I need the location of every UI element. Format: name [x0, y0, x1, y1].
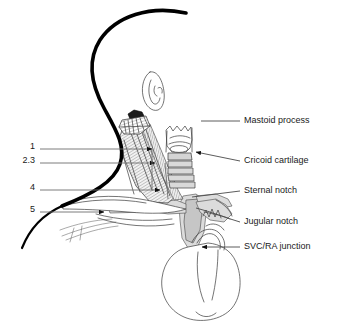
marker-2-3-label: 2.3: [22, 155, 35, 165]
mastoid-process-label: Mastoid process: [244, 115, 310, 125]
anatomical-figure: 1 2.3 4 5 Mastoid process: [0, 0, 341, 324]
marker-5-label: 5: [30, 204, 35, 214]
marker-4-label: 4: [30, 182, 35, 192]
jugular-notch-label: Jugular notch: [244, 216, 298, 226]
marker-1-label: 1: [30, 141, 35, 151]
figure-canvas: 1 2.3 4 5 Mastoid process: [0, 0, 341, 324]
larynx-trachea: [166, 126, 195, 188]
svc-ra-junction-label: SVC/RA junction: [244, 241, 311, 251]
cricoid-cartilage-label: Cricoid cartilage: [244, 155, 309, 165]
sternal-notch-label: Sternal notch: [244, 185, 297, 195]
